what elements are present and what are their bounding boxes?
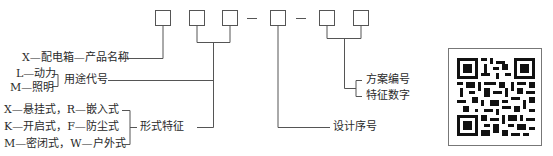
label-design-serial: 设计序号 <box>333 121 377 133</box>
label-product-name: X—配电箱—产品名称 <box>22 52 129 64</box>
label-form-feature: 形式特征 <box>140 121 184 133</box>
label-usage-power: L—动力 <box>16 68 56 80</box>
code-box-2 <box>190 11 205 26</box>
label-usage-lighting: M—照明 <box>10 82 54 94</box>
code-box-3 <box>223 11 238 26</box>
code-box-5 <box>320 11 335 26</box>
label-usage-code: 用途代号 <box>64 74 108 86</box>
label-form-option-2: K—开启式，F—防尘式 <box>4 121 119 133</box>
code-box-4 <box>271 11 286 26</box>
label-scheme-number: 方案编号 <box>366 74 410 86</box>
label-form-option-1: X—悬挂式，R—嵌入式 <box>4 104 119 116</box>
qr-code-pattern <box>457 58 535 136</box>
qr-code <box>448 48 542 146</box>
label-feature-digit: 特征数字 <box>366 90 410 102</box>
code-box-6 <box>354 11 369 26</box>
code-box-1 <box>156 11 171 26</box>
label-form-option-3: M—密闭式，W—户外式 <box>4 138 126 150</box>
